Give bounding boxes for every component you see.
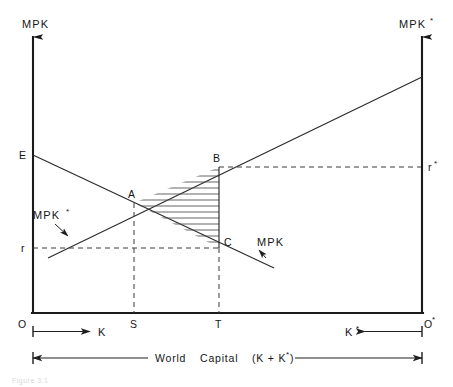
curve-label-mpk-star: MPK <box>33 209 60 221</box>
point-label-B: B <box>213 152 221 164</box>
origin-label-right-group: O * <box>424 315 435 330</box>
tick-label-r-star: r <box>428 161 432 173</box>
world-capital-open-paren: (K + K <box>252 352 286 364</box>
annotation-mpk: MPK <box>257 236 284 258</box>
measure-bar-k-star: K * <box>345 324 422 338</box>
tick-label-r: r <box>21 242 25 254</box>
world-capital-word-world: World <box>155 352 186 364</box>
measure-k-star-superscript: * <box>356 324 359 333</box>
world-capital-span: World Capital (K + K * ) <box>33 350 422 364</box>
axis-point-label-T: T <box>215 318 222 330</box>
right-axis-label: MPK <box>399 18 426 30</box>
origin-label-left: O <box>18 318 27 330</box>
point-label-C: C <box>224 236 232 248</box>
annotation-mpk-star: MPK * <box>33 207 69 236</box>
measure-k-label: K <box>98 326 106 338</box>
tick-label-r-star-group: r * <box>428 159 437 173</box>
axis-point-label-S: S <box>130 318 138 330</box>
measure-bar-k: K <box>33 326 106 338</box>
curve-label-mpk: MPK <box>257 236 284 248</box>
tick-label-r-star-superscript: * <box>434 159 437 168</box>
axis-frame <box>32 37 423 313</box>
economics-figure: MPK MPK * E r r * O O * S T A B C MPK * <box>0 0 453 387</box>
figure-canvas: MPK MPK * E r r * O O * S T A B C MPK * <box>0 0 453 387</box>
world-capital-word-capital: Capital <box>200 352 238 364</box>
world-capital-close-paren: ) <box>290 352 294 364</box>
left-axis-label: MPK <box>22 18 49 30</box>
right-axis-label-group: MPK * <box>399 16 433 30</box>
triangle-hatching <box>130 170 225 248</box>
curve-leader-mpk <box>259 250 266 258</box>
tick-label-E: E <box>19 149 27 161</box>
curve-leader-mpk-star <box>55 224 68 236</box>
origin-label-right-superscript: * <box>432 315 435 324</box>
measure-k-star-label: K <box>345 326 353 338</box>
mpk-schedule-line <box>33 155 274 268</box>
point-label-A: A <box>128 188 136 200</box>
world-capital-superscript: * <box>286 350 289 359</box>
curve-label-mpk-star-superscript: * <box>66 207 69 216</box>
figure-caption: Figure 3.1 <box>12 377 49 385</box>
right-axis-label-superscript: * <box>430 16 433 25</box>
